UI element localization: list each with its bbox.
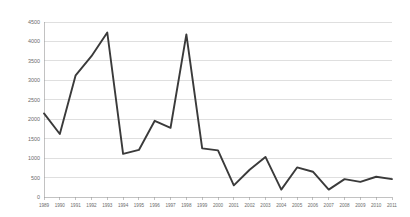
y-axis-tick-label: 0	[37, 194, 40, 200]
x-axis-tick-label: 1989	[39, 203, 50, 208]
y-axis-tick-label: 500	[31, 175, 40, 181]
y-axis-tick-label: 2500	[28, 97, 40, 103]
x-axis-tick-label: 1999	[197, 203, 208, 208]
gridlines	[44, 22, 392, 178]
y-axis-tick-label: 1500	[28, 136, 40, 142]
x-axis-tick-label: 2002	[245, 203, 256, 208]
x-axis-tick-label: 1997	[165, 203, 176, 208]
series-line	[44, 33, 392, 190]
x-axis-tick-label: 2004	[276, 203, 287, 208]
y-axis-tick-label: 2000	[28, 116, 40, 122]
x-axis-tick-label: 1998	[181, 203, 192, 208]
x-axis-tick-label: 1995	[134, 203, 145, 208]
x-axis-tick-label: 2006	[308, 203, 319, 208]
x-axis-tick-label: 2008	[339, 203, 350, 208]
x-axis-tick-labels: 1989199019911992199319941995199619971998…	[39, 203, 397, 208]
x-axis-tick-marks	[44, 197, 392, 200]
x-axis-tick-label: 1990	[55, 203, 66, 208]
data-series	[44, 33, 392, 190]
x-axis-tick-label: 2007	[324, 203, 335, 208]
y-axis-tick-labels: 050010001500200025003000350040004500	[28, 19, 40, 200]
x-axis-tick-label: 1993	[102, 203, 113, 208]
y-axis-tick-label: 4000	[28, 38, 40, 44]
x-axis-tick-label: 1994	[118, 203, 129, 208]
x-axis-tick-label: 1996	[150, 203, 161, 208]
x-axis-tick-label: 2000	[213, 203, 224, 208]
chart-canvas: 050010001500200025003000350040004500 198…	[0, 0, 410, 217]
y-axis-tick-label: 4500	[28, 19, 40, 25]
x-axis-tick-label: 1992	[86, 203, 97, 208]
x-axis-tick-label: 2009	[355, 203, 366, 208]
x-axis-tick-label: 2011	[387, 203, 397, 208]
y-axis-tick-label: 3500	[28, 58, 40, 64]
y-axis-tick-label: 3000	[28, 77, 40, 83]
x-axis-tick-label: 2001	[229, 203, 240, 208]
x-axis-tick-label: 2003	[260, 203, 271, 208]
y-axis-tick-label: 1000	[28, 155, 40, 161]
x-axis-tick-label: 2010	[371, 203, 382, 208]
x-axis-tick-label: 2005	[292, 203, 303, 208]
x-axis-tick-label: 1991	[71, 203, 82, 208]
line-chart: 050010001500200025003000350040004500 198…	[0, 0, 410, 217]
